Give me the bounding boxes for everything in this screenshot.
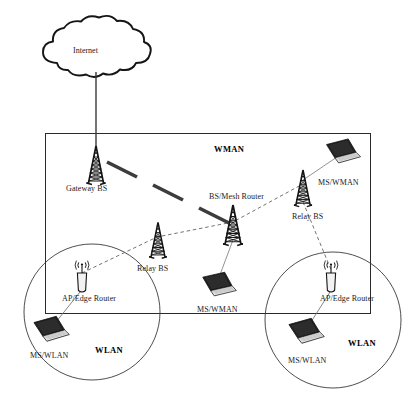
link-mesh-backhaul-chain bbox=[82, 185, 301, 273]
wlan-right-zone-boundary bbox=[265, 252, 401, 388]
bs-mesh-router-label: BS/Mesh Router bbox=[209, 192, 264, 201]
ms-wman-top-laptop-icon bbox=[326, 138, 361, 164]
ap-edge-router-left-access-point-icon bbox=[75, 261, 89, 292]
gateway-bs-label: Gateway BS bbox=[66, 184, 107, 193]
gateway-bs-tower-icon bbox=[87, 146, 106, 185]
link-relay-bs-right-to-ms-wman-top bbox=[303, 157, 337, 180]
relay-bs-right-label: Relay BS bbox=[292, 212, 323, 221]
wman-zone-label: WMAN bbox=[214, 144, 244, 154]
network-diagram: Internet WMAN WLAN WLAN Gateway BS BS/Me… bbox=[0, 0, 413, 401]
ap-edge-router-right-access-point-icon bbox=[324, 261, 338, 292]
wlan-right-zone-label: WLAN bbox=[348, 338, 376, 348]
wlan-left-zone-label: WLAN bbox=[95, 345, 123, 355]
ms-wlan-left-laptop-icon bbox=[34, 315, 70, 342]
relay-bs-left-label: Relay BS bbox=[137, 264, 168, 273]
ap-edge-router-left-label: AP/Edge Router bbox=[62, 294, 116, 303]
bs-mesh-router-tower-icon bbox=[223, 205, 243, 245]
ms-wlan-left-label: MS/WLAN bbox=[30, 351, 68, 360]
ms-wlan-right-laptop-icon bbox=[289, 317, 325, 344]
ms-wman-center-laptop-icon bbox=[203, 272, 237, 296]
cloud-label: Internet bbox=[73, 46, 98, 55]
ms-wlan-right-label: MS/WLAN bbox=[288, 356, 326, 365]
ap-edge-router-right-label: AP/Edge Router bbox=[320, 294, 374, 303]
relay-bs-left-tower-icon bbox=[149, 222, 167, 258]
ms-wman-top-label: MS/WMAN bbox=[318, 178, 359, 187]
ms-wman-center-label: MS/WMAN bbox=[197, 305, 238, 314]
